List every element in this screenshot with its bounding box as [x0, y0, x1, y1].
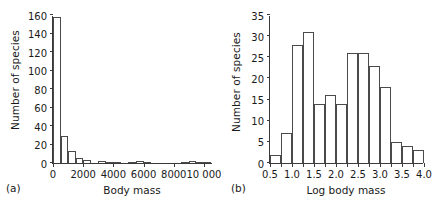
panel-b-x-tick-label: 2.5 [350, 169, 366, 180]
panel-b-y-tick [267, 77, 271, 78]
panel-b-x-tick-label: 2.0 [328, 169, 344, 180]
panel-b-y-tick-label: 0 [258, 158, 264, 169]
panel-a-tag: (a) [6, 182, 21, 194]
panel-a-y-tick-label: 120 [28, 47, 47, 58]
panel-a-y-tick-label: 60 [34, 103, 47, 114]
panel-b-y-tick [267, 120, 271, 121]
panel-b-y-tick-label: 20 [251, 73, 264, 84]
panel-a-y-tick-label: 80 [34, 84, 47, 95]
panel-b-y-tick-label: 25 [251, 52, 264, 63]
panel-a-x-tick-label: 2000 [70, 169, 95, 180]
figure-histograms-body-mass: Number of species 0204060801001201401600… [0, 0, 438, 206]
panel-a-y-tick-label: 40 [34, 121, 47, 132]
panel-b-y-tick-label: 5 [258, 137, 264, 148]
panel-b-x-tick-minor [369, 163, 370, 167]
panel-b-y-tick-label: 30 [251, 31, 264, 42]
panel-a-x-tick [174, 163, 175, 167]
histogram-bar [181, 162, 189, 163]
panel-b-x-tick [380, 163, 381, 167]
histogram-bar [98, 161, 106, 163]
histogram-bar [61, 136, 69, 163]
panel-a-x-tick-label: 8000 [161, 169, 186, 180]
panel-a-x-tick-label: 4000 [101, 169, 126, 180]
panel-a-x-tick [113, 163, 114, 167]
histogram-bar [347, 53, 358, 163]
histogram-bar [189, 161, 197, 163]
panel-b-y-axis-title: Number of species [230, 22, 242, 142]
panel-b-x-tick-label: 3.5 [394, 169, 410, 180]
panel-b-x-tick-label: 1.5 [306, 169, 322, 180]
panel-b-x-tick-minor [391, 163, 392, 167]
panel-a-x-tick-label: 0 [50, 169, 56, 180]
panel-b-x-tick-label: 4.0 [416, 169, 432, 180]
panel-b-x-tick-minor [325, 163, 326, 167]
panel-b-y-tick-label: 35 [251, 10, 264, 21]
histogram-bar [76, 158, 84, 163]
panel-b-x-axis-title: Log body mass [269, 184, 423, 196]
panel-b-y-tick [267, 141, 271, 142]
panel-b-y-tick [267, 35, 271, 36]
panel-b-x-tick-label: 0.5 [262, 169, 278, 180]
panel-b-x-tick-label: 1.0 [284, 169, 300, 180]
histogram-bar [325, 95, 336, 163]
panel-b-x-tick-label: 3.0 [372, 169, 388, 180]
panel-b-y-tick [267, 99, 271, 100]
panel-b-plot-area: 051015202530350.51.01.52.02.53.03.54.0 [269, 16, 423, 164]
panel-b-x-tick [424, 163, 425, 167]
panel-b-x-tick [402, 163, 403, 167]
histogram-bar [402, 146, 413, 163]
panel-a-x-axis-title: Body mass [52, 184, 212, 196]
histogram-bar [281, 133, 292, 163]
panel-b-y-tick [267, 56, 271, 57]
panel-a-x-tick-label: 10 000 [186, 169, 221, 180]
histogram-bar [144, 162, 152, 163]
panel-a-x-tick [204, 163, 205, 167]
histogram-bar [336, 104, 347, 163]
panel-b-x-tick [336, 163, 337, 167]
histogram-bar [136, 161, 144, 163]
panel-a-x-tick-label: 6000 [131, 169, 156, 180]
histogram-bar [204, 162, 212, 163]
panel-a: Number of species 0204060801001201401600… [0, 0, 219, 206]
histogram-bar [292, 45, 303, 163]
panel-b-x-tick-minor [303, 163, 304, 167]
histogram-bar [83, 160, 91, 163]
histogram-bar [314, 104, 325, 163]
panel-b-tag: (b) [231, 182, 246, 194]
panel-b-y-tick-label: 10 [251, 116, 264, 127]
panel-a-x-tick [53, 163, 54, 167]
panel-b-y-tick-label: 15 [251, 95, 264, 106]
panel-a-y-tick-label: 140 [28, 29, 47, 40]
histogram-bar [413, 150, 424, 163]
panel-a-x-tick [83, 163, 84, 167]
panel-a-x-tick [144, 163, 145, 167]
panel-b-x-tick [358, 163, 359, 167]
histogram-bar [358, 53, 369, 163]
histogram-bar [113, 162, 121, 163]
histogram-bar [128, 162, 136, 163]
panel-a-y-tick-label: 100 [28, 66, 47, 77]
panel-a-y-axis-title: Number of species [9, 20, 21, 140]
histogram-bar [106, 162, 114, 163]
histogram-bar [53, 17, 61, 163]
histogram-bar [369, 66, 380, 163]
panel-a-y-tick [50, 14, 54, 15]
histogram-bar [196, 162, 204, 163]
panel-b-y-tick [267, 14, 271, 15]
panel-a-y-tick-label: 20 [34, 140, 47, 151]
panel-a-plot-area: 0204060801001201401600200040006000800010… [52, 16, 212, 164]
panel-a-y-tick-label: 160 [28, 10, 47, 21]
histogram-bar [380, 87, 391, 163]
panel-b-x-tick-minor [347, 163, 348, 167]
histogram-bar [68, 151, 76, 163]
panel-b-x-tick [270, 163, 271, 167]
panel-b-x-tick [314, 163, 315, 167]
histogram-bar [270, 155, 281, 163]
panel-b-x-tick-minor [413, 163, 414, 167]
panel-b: Number of species 051015202530350.51.01.… [219, 0, 438, 206]
panel-b-x-tick [292, 163, 293, 167]
histogram-bar [303, 32, 314, 163]
histogram-bar [391, 142, 402, 163]
panel-a-y-tick-label: 0 [41, 158, 47, 169]
panel-b-x-tick-minor [281, 163, 282, 167]
